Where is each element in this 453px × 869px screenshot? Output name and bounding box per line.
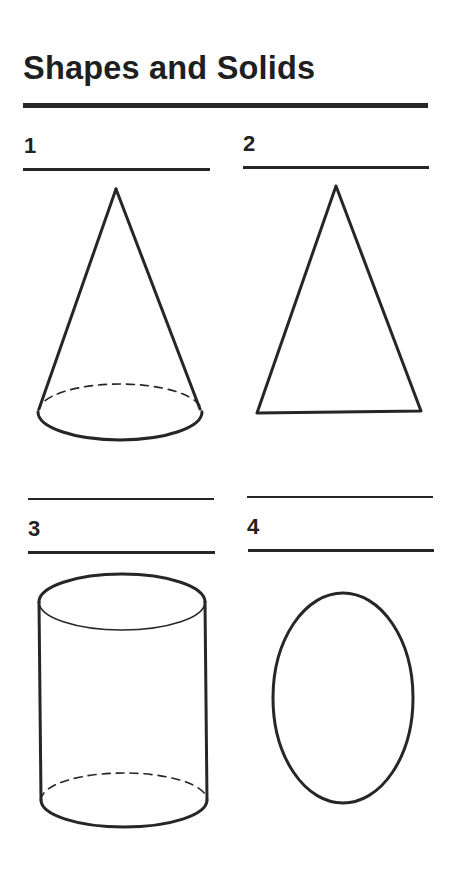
triangle-shape — [257, 186, 421, 413]
cone-shape — [38, 189, 202, 440]
cylinder-shape — [39, 574, 207, 827]
shapes-canvas — [0, 0, 453, 869]
oval-shape — [273, 593, 413, 803]
